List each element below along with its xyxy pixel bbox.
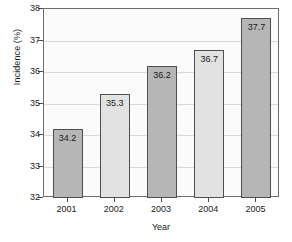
bar-2003: 36.2	[147, 66, 177, 198]
x-tick-label: 2004	[184, 204, 232, 214]
bar-value-label: 35.3	[101, 98, 129, 108]
y-axis-title: Incidence (%)	[12, 2, 22, 112]
x-axis-title: Year	[43, 222, 279, 232]
y-tick-label: 38	[18, 3, 40, 13]
bar-2004: 36.7	[194, 50, 224, 198]
x-tick-label: 2002	[90, 204, 138, 214]
plot-area: 34.235.336.236.737.7	[43, 8, 279, 197]
x-tick-mark	[255, 197, 256, 202]
bar-value-label: 34.2	[54, 133, 82, 143]
y-tick-label: 37	[18, 35, 40, 45]
y-tick-label: 33	[18, 161, 40, 171]
y-tick-label: 32	[18, 192, 40, 202]
x-tick-label: 2003	[137, 204, 185, 214]
bar-chart: Incidence (%) 34.235.336.236.737.7 32333…	[0, 0, 292, 242]
y-tick-label: 35	[18, 98, 40, 108]
bar-value-label: 37.7	[242, 22, 270, 32]
x-tick-mark	[67, 197, 68, 202]
x-tick-label: 2001	[43, 204, 91, 214]
bar-2005: 37.7	[241, 18, 271, 198]
bar-2001: 34.2	[53, 129, 83, 198]
bar-value-label: 36.2	[148, 70, 176, 80]
y-tick-label: 34	[18, 129, 40, 139]
x-tick-mark	[208, 197, 209, 202]
x-tick-mark	[161, 197, 162, 202]
bar-2002: 35.3	[100, 94, 130, 198]
y-tick-label: 36	[18, 66, 40, 76]
x-tick-label: 2005	[231, 204, 279, 214]
bar-value-label: 36.7	[195, 54, 223, 64]
x-tick-mark	[114, 197, 115, 202]
